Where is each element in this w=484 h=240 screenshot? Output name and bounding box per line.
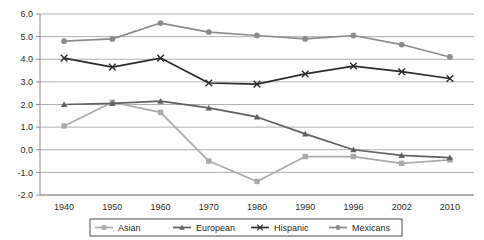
legend-label: Hispanic xyxy=(274,223,309,233)
data-point-marker-circle xyxy=(336,225,341,230)
data-point-marker-circle xyxy=(399,42,405,48)
series-hispanic xyxy=(61,55,453,88)
data-point-marker-circle xyxy=(61,38,67,44)
y-tick-label: 6.0 xyxy=(20,9,33,19)
chart-canvas: 6.05.04.03.02.01.00.0-1.0-2.0 1940195019… xyxy=(0,0,484,240)
y-tick-label: 3.0 xyxy=(20,77,33,87)
x-tick-label: 1960 xyxy=(151,202,171,212)
x-tick-label: 1940 xyxy=(54,202,74,212)
data-point-marker-circle xyxy=(351,33,357,39)
data-point-marker-square xyxy=(399,161,404,166)
chart-legend: AsianEuropeanHispanicMexicans xyxy=(90,219,402,236)
series-european xyxy=(61,98,453,160)
x-tick-label: 2010 xyxy=(440,202,460,212)
x-tick-label: 1950 xyxy=(102,202,122,212)
x-tick-label: 1990 xyxy=(295,202,315,212)
series-line xyxy=(64,58,450,84)
line-chart: 6.05.04.03.02.01.00.0-1.0-2.0 1940195019… xyxy=(0,0,484,240)
y-tick-label: 5.0 xyxy=(20,32,33,42)
y-tick-label: -2.0 xyxy=(17,190,33,200)
series-line xyxy=(64,23,450,57)
data-point-marker-circle xyxy=(206,29,212,35)
legend-label: Mexicans xyxy=(352,223,391,233)
legend-label: Asian xyxy=(118,223,141,233)
y-tick-label: 2.0 xyxy=(20,100,33,110)
y-tick-label: 1.0 xyxy=(20,122,33,132)
x-tick-label: 1996 xyxy=(343,202,363,212)
data-series-group xyxy=(61,20,453,184)
series-line xyxy=(64,101,450,158)
data-point-marker-circle xyxy=(158,20,164,26)
data-point-marker-square xyxy=(102,225,107,230)
data-point-marker-square xyxy=(254,179,259,184)
series-asian xyxy=(61,100,452,185)
legend-label: European xyxy=(196,223,235,233)
x-axis-tick-labels: 194019501960197019801990199620022010 xyxy=(54,202,460,212)
data-point-marker-square xyxy=(351,154,356,159)
x-tick-label: 1970 xyxy=(199,202,219,212)
y-tick-label: -1.0 xyxy=(17,168,33,178)
x-tick-label: 1980 xyxy=(247,202,267,212)
data-point-marker-circle xyxy=(109,36,115,42)
data-point-marker-circle xyxy=(302,36,308,42)
data-point-marker-circle xyxy=(254,33,260,39)
data-point-marker-circle xyxy=(447,54,453,60)
data-point-marker-square xyxy=(206,158,211,163)
y-axis-tick-labels: 6.05.04.03.02.01.00.0-1.0-2.0 xyxy=(17,9,33,200)
x-tick-label: 2002 xyxy=(392,202,412,212)
y-tick-label: 4.0 xyxy=(20,54,33,64)
data-point-marker-square xyxy=(158,110,163,115)
series-mexicans xyxy=(61,20,453,60)
data-point-marker-square xyxy=(61,123,66,128)
data-point-marker-square xyxy=(303,154,308,159)
y-tick-label: 0.0 xyxy=(20,145,33,155)
gridlines-group xyxy=(40,14,474,195)
